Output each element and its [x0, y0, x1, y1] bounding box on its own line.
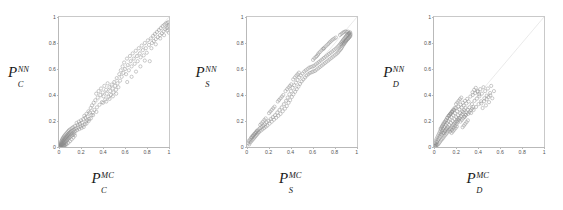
data-point-marker	[450, 121, 453, 124]
plot-area-panel-1: 00.20.40.60.8100.20.40.60.81	[58, 16, 170, 148]
x-axis-label-sub-3: D	[476, 186, 482, 195]
data-point-marker	[282, 102, 285, 105]
x-axis-label-base-2: P	[279, 170, 288, 186]
y-tick-mark	[245, 147, 247, 148]
data-point-marker	[95, 92, 98, 95]
data-point-marker	[96, 96, 99, 99]
y-tick-mark	[245, 121, 247, 122]
data-point-marker	[486, 87, 489, 90]
y-tick-label: 1	[241, 14, 244, 20]
y-tick-label: 0	[428, 144, 431, 150]
y-tick-label: 0.8	[49, 40, 56, 46]
y-tick-mark	[245, 17, 247, 18]
y-tick-label: 1	[53, 14, 56, 20]
y-tick-mark	[432, 17, 434, 18]
data-point-marker	[130, 75, 133, 78]
data-point-marker	[150, 47, 153, 50]
y-tick-label: 0.2	[236, 118, 243, 124]
data-point-marker	[121, 65, 124, 68]
x-axis-label-panel-1: PMCC	[91, 170, 100, 186]
data-point-marker	[479, 88, 482, 91]
x-axis-label-sub-2: S	[289, 186, 293, 195]
data-point-marker	[95, 110, 98, 113]
data-point-marker	[115, 76, 118, 79]
data-point-marker	[488, 101, 491, 104]
x-axis-label-sup-1: MC	[101, 171, 114, 180]
data-point-marker	[104, 98, 107, 101]
y-axis-label-sup-1: NN	[18, 65, 29, 74]
data-point-marker	[152, 39, 155, 42]
y-tick-label: 0.4	[49, 92, 56, 98]
y-tick-label: 0.6	[49, 66, 56, 72]
panel-pd: PNND 00.20.40.60.8100.20.40.60.81 PMCD	[375, 0, 563, 210]
data-point-marker	[490, 84, 493, 87]
y-axis-label-base-1: P	[8, 64, 17, 80]
data-point-marker	[123, 61, 126, 64]
data-point-marker	[481, 106, 484, 109]
data-point-marker	[453, 117, 456, 120]
data-point-marker	[485, 104, 488, 107]
y-tick-mark	[432, 43, 434, 44]
x-axis-label-base-3: P	[467, 170, 476, 186]
x-axis-label-sup-3: MC	[476, 171, 489, 180]
y-tick-label: 0.4	[236, 92, 243, 98]
data-points	[59, 21, 169, 147]
data-point-marker	[126, 80, 129, 83]
y-axis-label-sub-3: D	[393, 80, 399, 89]
data-point-marker	[289, 89, 292, 92]
data-point-marker	[155, 30, 158, 33]
y-tick-mark	[57, 95, 59, 96]
data-point-marker	[145, 51, 148, 54]
y-axis-label-base-3: P	[383, 64, 392, 80]
y-tick-label: 0.2	[49, 118, 56, 124]
data-point-marker	[128, 54, 131, 57]
y-tick-mark	[57, 69, 59, 70]
panel-pc: PNNC 00.20.40.60.8100.20.40.60.81 PMCC	[0, 0, 188, 210]
data-point-marker	[143, 41, 146, 44]
x-tick-label: 0	[245, 149, 248, 155]
data-point-marker	[288, 99, 291, 102]
y-tick-label: 0.8	[236, 40, 243, 46]
data-point-marker	[162, 34, 165, 37]
y-axis-label-sup-3: NN	[393, 65, 404, 74]
data-point-marker	[126, 63, 129, 66]
data-point-marker	[137, 47, 140, 50]
data-point-marker	[93, 108, 96, 111]
data-point-marker	[114, 88, 117, 91]
y-tick-mark	[57, 121, 59, 122]
data-point-marker	[101, 91, 104, 94]
data-point-marker	[491, 97, 494, 100]
data-point-marker	[111, 87, 114, 90]
data-point-marker	[287, 93, 290, 96]
scatter-canvas-panel-2	[247, 17, 357, 147]
data-point-marker	[148, 60, 151, 63]
data-point-marker	[116, 82, 119, 85]
data-point-marker	[119, 69, 122, 72]
x-axis-label-sub-1: C	[101, 186, 107, 195]
data-point-marker	[154, 43, 157, 46]
x-tick-label: 0.2	[453, 149, 460, 155]
x-axis-label-panel-2: PMCS	[279, 170, 288, 186]
data-point-marker	[136, 60, 139, 63]
data-point-marker	[103, 84, 106, 87]
y-axis-label-sub-2: S	[205, 80, 209, 89]
data-point-marker	[154, 37, 157, 40]
y-axis-label-panel-3: PNND	[383, 64, 392, 80]
x-axis-label-panel-3: PMCD	[467, 170, 476, 186]
data-point-marker	[276, 114, 279, 117]
scatter-canvas-panel-3	[434, 17, 544, 147]
data-point-marker	[127, 69, 130, 72]
x-tick-label: 1	[355, 149, 358, 155]
y-tick-mark	[57, 147, 59, 148]
data-point-marker	[105, 100, 108, 103]
y-axis-label-sub-1: C	[18, 80, 24, 89]
y-tick-mark	[57, 17, 59, 18]
data-point-marker	[493, 89, 496, 92]
x-tick-label: 0	[58, 149, 61, 155]
panel-ps: PNNS 00.20.40.60.8100.20.40.60.81 PMCS	[188, 0, 376, 210]
data-point-marker	[95, 106, 98, 109]
x-tick-label: 0.6	[309, 149, 316, 155]
data-point-marker	[469, 95, 472, 98]
y-axis-label-base-2: P	[196, 64, 205, 80]
y-tick-mark	[432, 95, 434, 96]
